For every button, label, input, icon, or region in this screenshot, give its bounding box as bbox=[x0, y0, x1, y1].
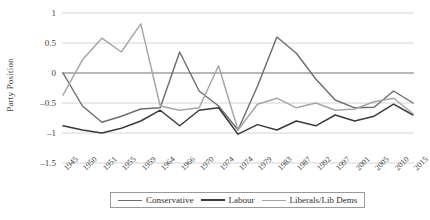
y-tick-label: 0 bbox=[20, 68, 56, 78]
y-tick-label: –1.5 bbox=[20, 158, 56, 168]
series-line bbox=[63, 24, 413, 130]
x-tick-label: 2015 bbox=[412, 155, 430, 173]
legend-label: Liberals/Lib Dems bbox=[290, 195, 358, 205]
y-tick-label: 0.5 bbox=[20, 38, 56, 48]
legend-item: Liberals/Lib Dems bbox=[262, 195, 358, 205]
y-tick-label: 1 bbox=[20, 8, 56, 18]
legend-swatch-liberals bbox=[262, 200, 286, 201]
legend-item: Conservative bbox=[118, 195, 194, 205]
y-tick-label: –1 bbox=[20, 128, 56, 138]
legend-swatch-conservative bbox=[118, 200, 142, 201]
legend: Conservative Labour Liberals/Lib Dems bbox=[110, 192, 365, 208]
y-tick-label: –0.5 bbox=[20, 98, 56, 108]
legend-item: Labour bbox=[201, 195, 255, 205]
legend-swatch-labour bbox=[201, 199, 225, 201]
legend-label: Labour bbox=[229, 195, 255, 205]
series-canvas bbox=[62, 12, 414, 164]
y-axis-title: Party Position bbox=[2, 30, 18, 140]
y-axis-ticks: 10.50–0.5–1–1.5 bbox=[20, 0, 56, 220]
plot-area bbox=[62, 12, 414, 164]
series-line bbox=[63, 37, 413, 130]
legend-label: Conservative bbox=[146, 195, 194, 205]
